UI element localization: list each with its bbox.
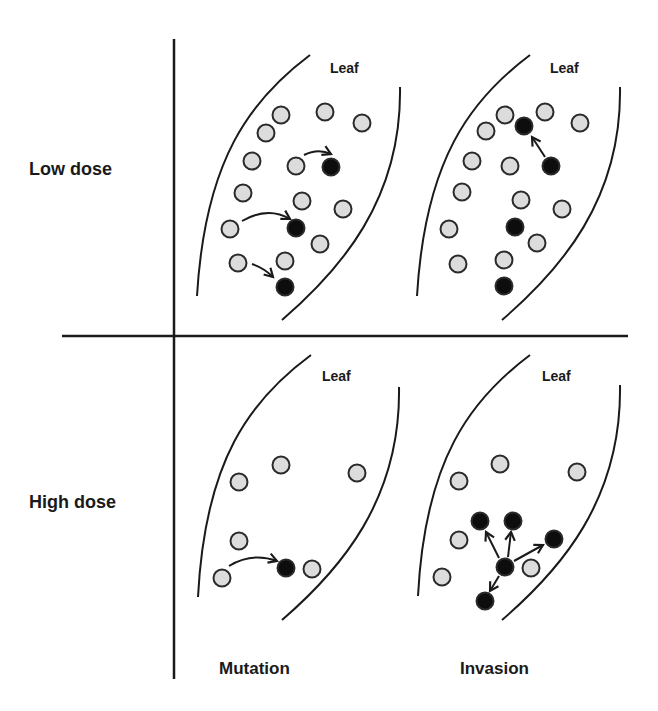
mutant-cell bbox=[543, 158, 560, 175]
cells bbox=[434, 456, 586, 610]
mutation-arrow bbox=[304, 151, 331, 155]
mutant-cell bbox=[472, 513, 489, 530]
normal-cell bbox=[335, 201, 352, 218]
normal-cell bbox=[317, 104, 334, 121]
normal-cell bbox=[354, 115, 371, 132]
normal-cell bbox=[273, 457, 290, 474]
row-label-low-dose: Low dose bbox=[29, 159, 112, 179]
normal-cell bbox=[231, 533, 248, 550]
panel-low-dose-invasion: Leaf bbox=[417, 55, 620, 320]
normal-cell bbox=[492, 456, 509, 473]
leaf-outline-left bbox=[198, 355, 311, 597]
normal-cell bbox=[304, 561, 321, 578]
column-label-invasion: Invasion bbox=[460, 659, 529, 678]
normal-cell bbox=[294, 193, 311, 210]
normal-cell bbox=[523, 560, 540, 577]
leaf-label: Leaf bbox=[550, 60, 579, 76]
mutant-cell bbox=[546, 531, 563, 548]
normal-cell bbox=[497, 107, 514, 124]
mutant-cell bbox=[323, 159, 340, 176]
normal-cell bbox=[222, 221, 239, 238]
normal-cell bbox=[451, 532, 468, 549]
normal-cell bbox=[450, 256, 467, 273]
normal-cell bbox=[230, 255, 247, 272]
normal-cell bbox=[529, 235, 546, 252]
column-label-mutation: Mutation bbox=[219, 659, 290, 678]
normal-cell bbox=[554, 201, 571, 218]
invasion-arrow bbox=[514, 545, 543, 561]
invasion-arrow bbox=[508, 532, 511, 557]
normal-cell bbox=[214, 570, 231, 587]
normal-cell bbox=[312, 236, 329, 253]
mutant-cell bbox=[277, 279, 294, 296]
dose-response-diagram: Low dose High dose Mutation Invasion Lea… bbox=[0, 0, 658, 711]
leaf-outline-left bbox=[418, 355, 530, 596]
normal-cell bbox=[513, 192, 530, 209]
mutation-arrow bbox=[242, 213, 290, 221]
normal-cell bbox=[349, 465, 366, 482]
mutant-cell bbox=[507, 219, 524, 236]
normal-cell bbox=[464, 153, 481, 170]
panel-low-dose-mutation: Leaf bbox=[197, 55, 400, 320]
normal-cell bbox=[496, 252, 513, 269]
leaf-label: Leaf bbox=[330, 60, 359, 76]
normal-cell bbox=[502, 158, 519, 175]
normal-cell bbox=[273, 107, 290, 124]
mutant-cell bbox=[278, 560, 295, 577]
invasion-arrow bbox=[490, 576, 499, 591]
normal-cell bbox=[288, 158, 305, 175]
mutant-cell bbox=[497, 559, 514, 576]
leaf-outline-right bbox=[282, 387, 399, 620]
leaf-label: Leaf bbox=[542, 368, 571, 384]
normal-cell bbox=[277, 253, 294, 270]
cells bbox=[222, 104, 371, 296]
normal-cell bbox=[235, 185, 252, 202]
normal-cell bbox=[537, 104, 554, 121]
mutant-cell bbox=[477, 593, 494, 610]
leaf-label: Leaf bbox=[322, 368, 351, 384]
normal-cell bbox=[572, 115, 589, 132]
mutant-cell bbox=[496, 278, 513, 295]
normal-cell bbox=[244, 153, 261, 170]
invasion-arrow bbox=[486, 532, 499, 558]
normal-cell bbox=[231, 474, 248, 491]
panel-high-dose-mutation: Leaf bbox=[198, 355, 399, 620]
mutation-arrow bbox=[229, 557, 277, 566]
normal-cell bbox=[454, 184, 471, 201]
panel-high-dose-invasion: Leaf bbox=[418, 355, 620, 620]
cells bbox=[214, 457, 366, 587]
mutant-cell bbox=[288, 220, 305, 237]
leaf-outline-right bbox=[502, 385, 620, 620]
normal-cell bbox=[258, 125, 275, 142]
invasion-arrow bbox=[532, 137, 545, 157]
normal-cell bbox=[434, 569, 451, 586]
normal-cell bbox=[478, 123, 495, 140]
mutant-cell bbox=[505, 513, 522, 530]
normal-cell bbox=[569, 464, 586, 481]
normal-cell bbox=[451, 473, 468, 490]
row-label-high-dose: High dose bbox=[29, 492, 116, 512]
normal-cell bbox=[441, 221, 458, 238]
mutant-cell bbox=[516, 118, 533, 135]
cells bbox=[441, 104, 589, 295]
mutation-arrow bbox=[252, 264, 273, 277]
